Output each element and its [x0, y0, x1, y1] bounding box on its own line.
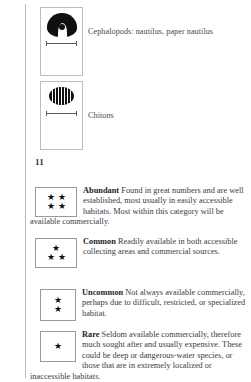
chiton-silhouette-icon — [41, 86, 82, 106]
star-rating-rare: ★ — [40, 331, 76, 362]
species-plate-cephalopods — [40, 7, 83, 76]
scale-bar — [46, 41, 77, 46]
star-rating-uncommon: ★ ★ — [40, 289, 76, 321]
abundance-term-uncommon: Uncommon — [82, 288, 123, 297]
star-rating-abundant: ★ ★ ★ ★ — [35, 187, 77, 217]
star-icon: ★ — [47, 202, 55, 212]
species-caption-chitons: Chitons — [88, 111, 246, 122]
star-icon: ★ — [58, 202, 66, 212]
star-icon: ★ — [58, 253, 66, 263]
left-margin-rule — [25, 4, 26, 378]
abundance-entry-rare: ★ Rare Seldom available commercially, th… — [30, 330, 249, 382]
star-icon: ★ — [47, 253, 55, 263]
page-number: 11 — [35, 157, 44, 167]
star-icon: ★ — [54, 342, 62, 352]
abundance-entry-uncommon: ★ ★ Uncommon Not always available commer… — [30, 288, 249, 321]
star-rating-common: ★ ★ ★ — [35, 238, 77, 268]
species-caption-cephalopods: Cephalopods: nautilus, paper nautilus — [88, 27, 246, 38]
book-page: Cephalopods: nautilus, paper nautilus Ch… — [0, 0, 251, 382]
abundance-term-rare: Rare — [82, 330, 99, 339]
abundance-term-abundant: Abundant — [83, 186, 119, 195]
nautilus-silhouette-icon — [41, 12, 82, 38]
abundance-entry-abundant: ★ ★ ★ ★ Abundant Found in great numbers … — [30, 186, 249, 228]
abundance-entry-common: ★ ★ ★ Common Readily available in both a… — [30, 237, 249, 268]
scale-bar — [46, 111, 77, 116]
species-plate-chitons — [40, 81, 83, 150]
star-icon: ★ — [54, 305, 62, 315]
abundance-term-common: Common — [83, 237, 116, 246]
